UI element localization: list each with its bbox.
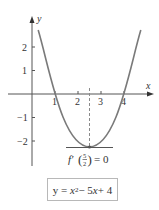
svg-text:5: 5 <box>83 152 86 159</box>
svg-text:): ) <box>88 152 92 167</box>
svg-text:2: 2 <box>83 160 86 167</box>
y-tick-label-1: 1 <box>22 65 27 76</box>
y-tick-label-2: 2 <box>22 42 27 53</box>
equation-term-c: + 4 <box>98 184 112 196</box>
svg-text:(: ( <box>78 152 82 167</box>
vertex-point <box>88 145 91 148</box>
y-axis-label: y <box>36 13 42 24</box>
x-tick-label-2: 2 <box>75 96 80 107</box>
x-axis-label: x <box>145 80 151 91</box>
equation-lhs: y = <box>53 184 67 196</box>
svg-text:f′: f′ <box>68 153 74 165</box>
equation-box: y = x2 − 5x + 4 <box>47 178 118 201</box>
svg-text:= 0: = 0 <box>94 153 109 165</box>
x-tick-label-3: 3 <box>98 96 103 107</box>
equation-term-b: − 5 <box>78 184 92 196</box>
x-axis-arrow-icon <box>147 92 154 97</box>
y-tick-label-neg2: −2 <box>17 136 28 147</box>
y-axis-arrow-icon <box>30 16 35 23</box>
derivative-annotation: f′ ( 5 2 ) = 0 <box>68 152 109 167</box>
y-tick-label-neg1: −1 <box>17 112 28 123</box>
